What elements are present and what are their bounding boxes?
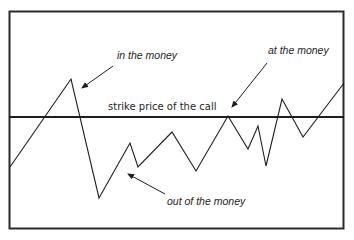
at-the-money-label: at the money [268, 44, 329, 56]
moneyness-diagram: strike price of the call in the money at… [0, 0, 354, 240]
strike-price-label: strike price of the call [108, 101, 216, 112]
in-the-money-label: in the money [117, 49, 178, 61]
out-of-the-money-label: out of the money [167, 195, 246, 207]
at-the-money-arrow [232, 63, 267, 107]
out-of-the-money-arrow [128, 174, 165, 194]
price-path-line [10, 79, 344, 198]
in-the-money-arrow [82, 66, 113, 88]
